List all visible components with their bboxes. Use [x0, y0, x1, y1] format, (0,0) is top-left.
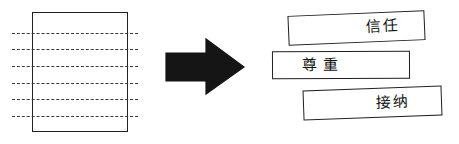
output-concepts-group: 信任 尊重 接纳 [262, 0, 459, 144]
flow-connector [160, 36, 250, 98]
document-dashed-line [12, 83, 138, 84]
document-dashed-line [12, 99, 138, 100]
concept-label-accept: 接纳 [375, 94, 410, 110]
document-dashed-line [12, 33, 138, 34]
document-outline [32, 12, 128, 132]
concept-box-respect[interactable]: 尊重 [272, 51, 410, 80]
concept-label-trust: 信任 [365, 18, 400, 34]
concept-box-trust[interactable]: 信任 [287, 10, 425, 46]
document-dashed-line [12, 49, 138, 50]
diagram-canvas: 信任 尊重 接纳 [0, 0, 459, 144]
source-document-group [0, 0, 150, 144]
document-dashed-line [12, 66, 138, 67]
concept-box-accept[interactable]: 接纳 [303, 86, 443, 121]
concept-label-respect: 尊重 [302, 57, 344, 72]
arrow-right-icon [160, 36, 250, 98]
document-dashed-line [12, 116, 138, 117]
